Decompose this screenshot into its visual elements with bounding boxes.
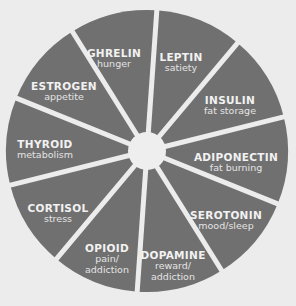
center-hub xyxy=(128,132,166,170)
segment-label-cortisol: CORTISOL stress xyxy=(28,202,89,225)
hormone-wheel-diagram: GHRELIN hunger LEPTIN satiety INSULIN fa… xyxy=(0,0,296,306)
segment-label-ghrelin: GHRELIN hunger xyxy=(87,47,141,70)
segment-label-estrogen: ESTROGEN appetite xyxy=(31,80,97,103)
segment-description: satiety xyxy=(159,63,202,74)
segment-description: mood/sleep xyxy=(190,221,262,232)
segment-description: hunger xyxy=(87,59,141,70)
segment-label-adiponectin: ADIPONECTIN fat burning xyxy=(194,151,278,174)
segment-label-opioid: OPIOID pain/ addiction xyxy=(77,242,137,276)
segment-description: stress xyxy=(28,214,89,225)
segment-label-thyroid: THYROID metabolism xyxy=(17,138,73,161)
segment-description: appetite xyxy=(31,92,97,103)
segment-label-leptin: LEPTIN satiety xyxy=(159,51,202,74)
segment-description: fat burning xyxy=(194,163,278,174)
segment-description: metabolism xyxy=(17,150,73,161)
segment-label-insulin: INSULIN fat storage xyxy=(204,94,256,117)
segment-description: fat storage xyxy=(204,106,256,117)
segment-label-dopamine: DOPAMINE reward/ addiction xyxy=(138,249,208,283)
segment-label-serotonin: SEROTONIN mood/sleep xyxy=(190,209,262,232)
segment-description: pain/ addiction xyxy=(83,254,131,276)
segment-description: reward/ addiction xyxy=(148,261,198,283)
